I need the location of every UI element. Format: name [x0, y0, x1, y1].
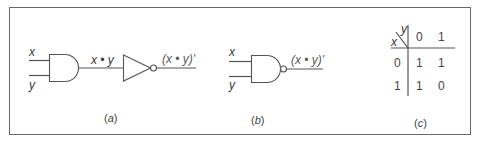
nand-gate-icon	[252, 56, 281, 83]
truth-table-cell: 0	[438, 79, 445, 93]
truth-table-row-header: 1	[394, 79, 401, 93]
and-gate-icon	[50, 55, 79, 82]
panel-b-caption: (b)	[251, 114, 264, 126]
panel-c-truth-table: y x 0 1 0 1 1 1 1 0 (c)	[390, 22, 455, 129]
panel-a-caption: (a)	[104, 112, 117, 124]
panel-b-input-y-label: y	[228, 78, 236, 92]
truth-table-col-header: 0	[416, 30, 423, 44]
panel-c-caption: (c)	[414, 117, 427, 129]
panel-a-output-label: (x • y)'	[162, 52, 196, 66]
panel-a: x y x • y (x • y)' (a)	[28, 45, 196, 124]
panel-b-input-x-label: x	[228, 45, 236, 59]
nand-inversion-bubble-icon	[281, 66, 287, 72]
truth-table-col-header: 1	[438, 30, 445, 44]
logic-diagram: x y x • y (x • y)' (a) x y (	[0, 0, 479, 144]
panel-b: x y (x • y)' (b)	[228, 45, 325, 126]
truth-table-cell: 1	[416, 56, 423, 70]
truth-table-row-variable: x	[390, 35, 398, 49]
panel-a-input-x-label: x	[28, 45, 36, 59]
truth-table-col-variable: y	[400, 22, 408, 36]
truth-table-cell: 1	[438, 56, 445, 70]
not-gate-icon	[124, 55, 151, 81]
truth-table-cell: 1	[416, 79, 423, 93]
truth-table-row-header: 0	[394, 56, 401, 70]
inversion-bubble-icon	[151, 65, 157, 71]
panel-b-output-label: (x • y)'	[291, 53, 325, 67]
panel-a-intermediate-label: x • y	[90, 53, 115, 67]
panel-a-input-y-label: y	[28, 78, 36, 92]
